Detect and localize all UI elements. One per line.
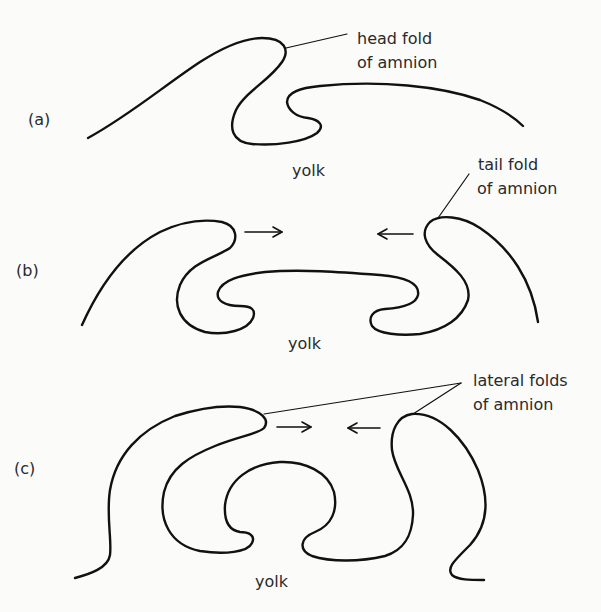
yolk-label-c: yolk [255,572,289,591]
head-fold-membrane [88,38,523,145]
left-arrow-c [348,423,380,433]
panel-label-c: (c) [14,459,35,478]
right-arrow-b [245,227,282,237]
head-fold-label-line1: head fold [357,29,432,48]
panel-label-b: (b) [16,261,39,280]
tail-fold-label-line1: tail fold [478,155,538,174]
left-arrow-b [378,229,413,239]
head-fold-label-line2: of amnion [357,53,437,72]
panel-a: (a) head fold of amnion yolk [28,29,523,180]
yolk-label-a: yolk [292,161,326,180]
lateral-fold-leader-line-left [264,383,461,414]
lateral-fold-membrane [75,406,486,580]
head-fold-membrane-b [82,217,538,335]
tail-fold-label-line2: of amnion [477,179,557,198]
tail-fold-leader-line [438,174,469,218]
panel-b: (b) tail fold of amnion yolk [16,155,557,353]
yolk-label-b: yolk [288,334,322,353]
right-arrow-c [277,422,311,432]
lateral-folds-label-line1: lateral folds [473,371,568,390]
lateral-folds-label-line2: of amnion [473,395,553,414]
amnion-folding-diagram: (a) head fold of amnion yolk (b) tail fo… [0,0,601,612]
panel-label-a: (a) [28,110,50,129]
panel-c: (c) lateral folds of amnion yolk [14,371,568,591]
lateral-fold-leader-line-right [413,383,461,414]
head-fold-leader-line [286,34,347,48]
